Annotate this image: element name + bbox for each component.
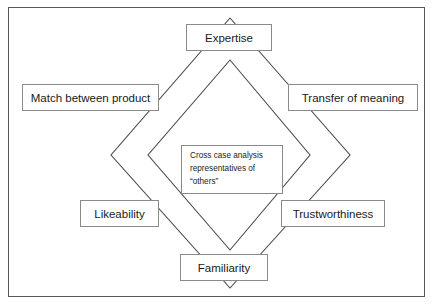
center-text-line-2: representatives of: [190, 163, 263, 176]
node-trustworthiness-label: Trustworthiness: [293, 208, 374, 220]
node-center-cross-case-analysis: Cross case analysis representatives of “…: [181, 145, 283, 194]
node-likeability-label: Likeability: [94, 208, 145, 220]
node-trustworthiness: Trustworthiness: [281, 200, 385, 227]
node-transfer-of-meaning: Transfer of meaning: [288, 84, 418, 111]
node-familiarity: Familiarity: [180, 254, 268, 281]
center-text-line-3: “others”: [190, 176, 263, 189]
node-transfer-of-meaning-label: Transfer of meaning: [302, 92, 404, 104]
node-expertise: Expertise: [186, 24, 272, 51]
node-expertise-label: Expertise: [205, 32, 253, 44]
node-match-between-product-label: Match between product: [31, 92, 151, 104]
center-text-block: Cross case analysis representatives of “…: [190, 150, 263, 188]
node-likeability: Likeability: [80, 200, 159, 227]
node-match-between-product: Match between product: [22, 84, 159, 111]
center-text-line-1: Cross case analysis: [190, 150, 263, 163]
diagram-canvas: Expertise Match between product Transfer…: [0, 0, 432, 307]
node-familiarity-label: Familiarity: [198, 262, 250, 274]
